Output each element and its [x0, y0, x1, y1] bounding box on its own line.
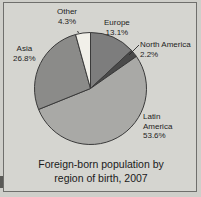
- pie-label-asia: Asia 26.8%: [13, 44, 36, 63]
- pie-label-europe: Europe 13.1%: [104, 18, 130, 37]
- pie-label-latin-america-name-line2: America: [143, 122, 172, 132]
- leader-line-other: [75, 31, 79, 33]
- leader-line-north-america: [129, 45, 139, 55]
- pie-label-other: Other 4.3%: [57, 7, 77, 26]
- pie-label-north-america: North America 2.2%: [140, 40, 191, 59]
- pie-label-asia-value: 26.8%: [13, 54, 36, 64]
- page-edge-mark: [0, 176, 3, 188]
- chart-caption-line1: Foreign-born population by: [8, 157, 194, 171]
- chart-figure: Other 4.3% Europe 13.1% North America 2.…: [0, 0, 201, 197]
- pie-label-asia-name: Asia: [17, 44, 33, 53]
- pie-label-latin-america-value: 53.6%: [143, 131, 172, 141]
- pie-label-other-name: Other: [57, 7, 77, 16]
- pie-label-north-america-name: North America: [140, 40, 191, 49]
- pie-label-north-america-value: 2.2%: [140, 50, 191, 60]
- pie-label-europe-name: Europe: [104, 18, 130, 27]
- chart-caption-line2: region of birth, 2007: [8, 171, 194, 185]
- pie-label-latin-america: Latin America 53.6%: [143, 112, 172, 141]
- pie-label-latin-america-name-line1: Latin: [143, 112, 160, 121]
- chart-caption: Foreign-born population by region of bir…: [8, 157, 194, 185]
- pie-label-other-value: 4.3%: [57, 17, 77, 27]
- pie-label-europe-value: 13.1%: [104, 28, 130, 38]
